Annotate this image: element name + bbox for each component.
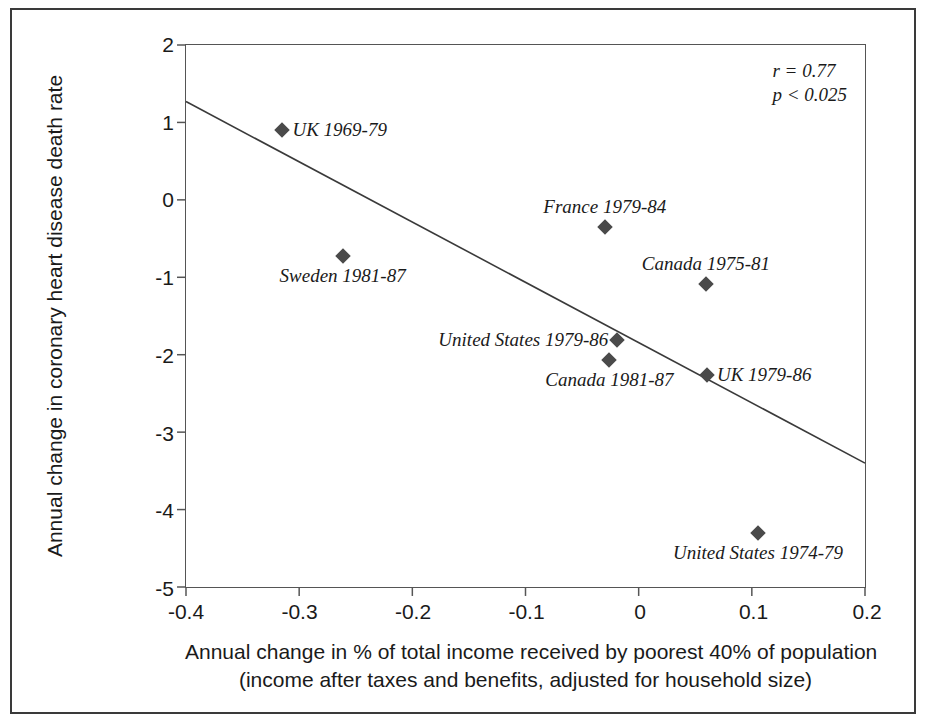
x-axis-tick-label: 0 — [634, 587, 646, 624]
y-axis-tick-label: 0 — [162, 188, 186, 212]
figure-container: Annual change in coronary heart disease … — [0, 0, 928, 726]
x-axis-tick-label: 0.2 — [852, 587, 881, 624]
x-axis-tick-label: 0.1 — [739, 587, 768, 624]
y-axis-tick-label: -4 — [155, 499, 186, 523]
x-axis-title-line2: (income after taxes and benefits, adjust… — [185, 666, 866, 694]
x-axis-tick-label: -0.2 — [395, 587, 431, 624]
x-axis-title-line1: Annual change in % of total income recei… — [185, 638, 866, 666]
y-axis-tick-label: 1 — [162, 111, 186, 135]
correlation-value: r = 0.77 — [772, 59, 847, 83]
data-point-label: Canada 1975-81 — [642, 253, 770, 275]
y-axis-tick-label: -1 — [155, 266, 186, 290]
y-axis-title: Annual change in coronary heart disease … — [40, 44, 70, 588]
data-point-label: UK 1969-79 — [292, 119, 386, 141]
x-axis-tick-label: -0.3 — [281, 587, 317, 624]
data-point-label: United States 1979-86 — [438, 329, 608, 351]
y-axis-tick-label: 2 — [162, 33, 186, 57]
plot-svg — [186, 45, 865, 587]
data-point-label: Sweden 1981-87 — [280, 265, 406, 287]
data-point-label: France 1979-84 — [543, 196, 666, 218]
x-axis-tick-label: -0.1 — [508, 587, 544, 624]
x-axis-title: Annual change in % of total income recei… — [185, 638, 866, 695]
y-axis-tick-label: -2 — [155, 344, 186, 368]
y-axis-tick-label: -3 — [155, 422, 186, 446]
statistics-annotation: r = 0.77 p < 0.025 — [772, 59, 847, 108]
data-point-label: United States 1974-79 — [673, 542, 843, 564]
x-axis-tick-label: -0.4 — [168, 587, 204, 624]
plot-area: 210-1-2-3-4-5 -0.4-0.3-0.2-0.100.10.2 UK… — [185, 44, 866, 588]
data-point-label: Canada 1981-87 — [545, 369, 673, 391]
p-value: p < 0.025 — [772, 83, 847, 107]
data-point-label: UK 1979-86 — [717, 364, 811, 386]
